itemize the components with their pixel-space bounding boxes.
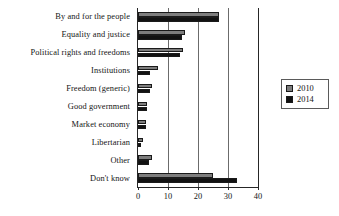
bar-2010 <box>138 30 185 34</box>
chart-legend: 2010 2014 <box>281 79 329 109</box>
category-label: Institutions <box>0 66 130 75</box>
bar-2014 <box>138 178 237 182</box>
bar-2010 <box>138 12 219 16</box>
gridline <box>258 8 259 187</box>
bar-2014 <box>138 53 180 57</box>
bar-2014 <box>138 107 147 111</box>
bar-group <box>138 8 258 26</box>
bar-2010 <box>138 66 158 70</box>
x-tick-mark <box>228 187 229 190</box>
category-label: Political rights and freedoms <box>0 48 130 57</box>
bar-2014 <box>138 143 141 147</box>
bar-2014 <box>138 125 146 129</box>
bar-group <box>138 115 258 133</box>
bar-2010 <box>138 84 152 88</box>
x-tick-mark <box>138 187 139 190</box>
x-tick-mark <box>258 187 259 190</box>
bar-2010 <box>138 48 183 52</box>
category-label: Good government <box>0 102 130 111</box>
x-tick-label: 0 <box>126 192 150 202</box>
x-tick-label: 30 <box>216 192 240 202</box>
bar-2014 <box>138 89 150 93</box>
bar-group <box>138 169 258 187</box>
category-label: Other <box>0 156 130 165</box>
category-label: Libertarian <box>0 138 130 147</box>
category-label: By and for the people <box>0 12 130 21</box>
x-tick-mark <box>198 187 199 190</box>
bar-chart: By and for the people Equality and justi… <box>0 0 339 216</box>
bar-2010 <box>138 155 152 159</box>
bar-2010 <box>138 138 143 142</box>
bar-group <box>138 151 258 169</box>
legend-swatch-icon-2014 <box>286 96 293 103</box>
x-tick-mark <box>168 187 169 190</box>
legend-swatch-icon-2010 <box>286 85 293 92</box>
bar-group <box>138 98 258 116</box>
x-tick-label: 20 <box>186 192 210 202</box>
category-label: Don't know <box>0 174 130 183</box>
category-label: Equality and justice <box>0 30 130 39</box>
bar-2014 <box>138 17 219 21</box>
bar-2014 <box>138 71 150 75</box>
bar-2014 <box>138 160 149 164</box>
category-label: Market economy <box>0 120 130 129</box>
legend-label-2010: 2010 <box>297 84 314 93</box>
bar-group <box>138 44 258 62</box>
legend-label-2014: 2014 <box>297 95 314 104</box>
x-tick-label: 40 <box>246 192 270 202</box>
bar-group <box>138 62 258 80</box>
plot-area: 010203040 <box>138 8 258 186</box>
bar-2010 <box>138 102 147 106</box>
bar-2010 <box>138 173 213 177</box>
category-label: Freedom (generic) <box>0 84 130 93</box>
legend-item-2010: 2010 <box>286 83 324 94</box>
x-tick-label: 10 <box>156 192 180 202</box>
category-axis-labels: By and for the people Equality and justi… <box>0 8 134 186</box>
bar-2010 <box>138 120 146 124</box>
bar-group <box>138 80 258 98</box>
bar-group <box>138 133 258 151</box>
bar-group <box>138 26 258 44</box>
legend-item-2014: 2014 <box>286 94 324 105</box>
bar-2014 <box>138 35 182 39</box>
